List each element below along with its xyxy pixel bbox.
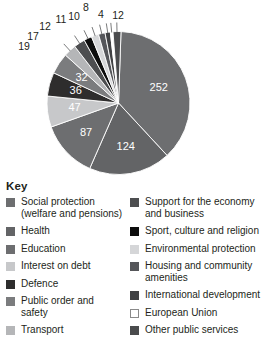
legend-item[interactable]: Defence — [6, 278, 130, 290]
pie-slice-value-label: 87 — [80, 126, 92, 138]
legend-swatch-icon — [6, 227, 15, 236]
legend-swatch-icon — [6, 297, 15, 306]
legend-column-left: Social protection (welfare and pensions)… — [0, 196, 130, 342]
legend-swatch-icon — [6, 245, 15, 254]
legend-item-label: Housing and community amenities — [145, 260, 252, 283]
pie-leader-line — [111, 23, 112, 33]
pie-slice-value-label: 124 — [117, 140, 135, 152]
pie-slice-value-label: 36 — [70, 84, 82, 96]
legend-item[interactable]: Social protection (welfare and pensions) — [6, 196, 130, 219]
legend-item-label: Social protection (welfare and pensions) — [21, 196, 122, 219]
pie-chart: 25212487473632 19171211108412 — [0, 0, 266, 182]
legend-swatch-icon — [6, 198, 15, 207]
legend-swatch-icon — [130, 262, 139, 271]
legend-column-right: Support for the economy and businessSpor… — [130, 196, 266, 342]
legend-swatch-icon — [130, 291, 139, 300]
legend-swatch-icon — [6, 326, 15, 335]
pie-callout-value-label: 10 — [68, 10, 80, 22]
pie-leader-line — [92, 27, 95, 36]
legend-item-label: Transport — [21, 324, 63, 336]
pie-callout-value-label: 8 — [83, 1, 89, 13]
legend-item-label: Public order and safety — [21, 295, 94, 318]
legend-item-label: European Union — [145, 307, 217, 319]
legend-item-label: Interest on debt — [21, 260, 91, 272]
pie-leader-line — [64, 44, 71, 51]
legend-item-label: Other public services — [145, 324, 238, 336]
legend-item-label: Defence — [21, 278, 58, 290]
legend-item[interactable]: Environmental protection — [130, 243, 266, 255]
legend-item[interactable]: Sport, culture and religion — [130, 225, 266, 237]
legend-item-label: Environmental protection — [145, 243, 256, 255]
legend-swatch-icon — [130, 326, 139, 335]
legend-item[interactable]: Interest on debt — [6, 260, 130, 272]
legend-item[interactable]: Health — [6, 225, 130, 237]
pie-callout-value-label: 12 — [39, 20, 51, 32]
pie-leader-line — [75, 36, 80, 44]
pie-callout-value-label: 11 — [56, 13, 67, 25]
legend-item[interactable]: Transport — [6, 324, 130, 336]
legend-swatch-icon — [130, 227, 139, 236]
pie-callout-value-label: 4 — [98, 8, 104, 20]
legend-item[interactable]: European Union — [130, 307, 266, 319]
pie-leader-line — [106, 23, 108, 33]
pie-slice-value-label: 32 — [75, 71, 87, 83]
legend-item-label: Education — [21, 243, 65, 255]
legend-swatch-icon — [130, 198, 139, 207]
legend-item[interactable]: Support for the economy and business — [130, 196, 266, 219]
legend-item-label: Support for the economy and business — [145, 196, 255, 219]
pie-callout-value-label: 17 — [27, 30, 39, 42]
pie-slice-value-label: 252 — [150, 81, 168, 93]
legend-swatch-icon — [6, 262, 15, 271]
legend-title: Key — [6, 180, 266, 192]
pie-leader-line — [100, 25, 102, 35]
legend: Key Social protection (welfare and pensi… — [0, 180, 266, 348]
legend-columns: Social protection (welfare and pensions)… — [0, 196, 266, 342]
legend-item[interactable]: International development — [130, 289, 266, 301]
pie-slice-value-label: 47 — [68, 101, 80, 113]
legend-item-label: International development — [145, 289, 260, 301]
legend-swatch-icon — [6, 280, 15, 289]
pie-callout-value-label: 12 — [112, 9, 124, 21]
legend-item-label: Sport, culture and religion — [145, 225, 259, 237]
legend-swatch-icon — [130, 245, 139, 254]
legend-item[interactable]: Housing and community amenities — [130, 260, 266, 283]
legend-item[interactable]: Other public services — [130, 324, 266, 336]
legend-item[interactable]: Education — [6, 243, 130, 255]
legend-item[interactable]: Public order and safety — [6, 295, 130, 318]
legend-item-label: Health — [21, 225, 50, 237]
pie-chart-svg: 25212487473632 19171211108412 — [0, 0, 266, 182]
legend-swatch-icon — [130, 309, 139, 318]
pie-leader-line — [84, 30, 88, 39]
